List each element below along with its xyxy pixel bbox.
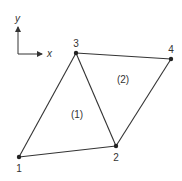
- element-1-label: (1): [71, 109, 83, 120]
- node-4-label: 4: [168, 44, 174, 55]
- node-3-dot: [74, 51, 78, 55]
- edge-1-2: [19, 146, 116, 157]
- edge-1-3: [19, 53, 76, 157]
- edge-2-4: [116, 59, 171, 146]
- x-axis-label: x: [46, 48, 53, 59]
- y-axis-label: y: [14, 13, 21, 24]
- node-1-label: 1: [16, 163, 22, 174]
- node-2-dot: [114, 144, 118, 148]
- coordinate-axes: x y: [14, 13, 53, 59]
- fe-mesh-diagram: x y (1) (2) 1 2 3 4: [0, 0, 182, 181]
- element-2-label: (2): [117, 74, 129, 85]
- edge-3-4: [76, 53, 171, 59]
- element-edges: [19, 53, 171, 157]
- mesh-nodes: 1 2 3 4: [16, 38, 174, 174]
- edge-2-3: [76, 53, 116, 146]
- node-4-dot: [169, 57, 173, 61]
- node-2-label: 2: [113, 152, 119, 163]
- node-3-label: 3: [73, 38, 79, 49]
- node-1-dot: [17, 155, 21, 159]
